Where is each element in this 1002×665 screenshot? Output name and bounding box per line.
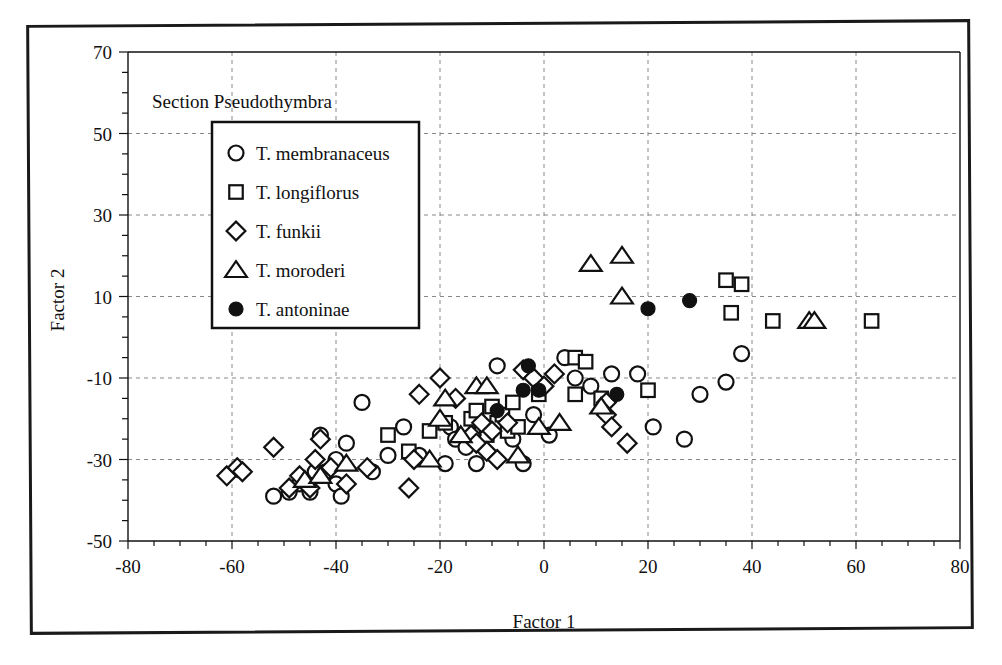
data-point xyxy=(735,278,749,292)
data-point xyxy=(266,489,281,504)
data-point xyxy=(579,355,593,369)
data-point xyxy=(355,395,370,410)
x-tick-label: 40 xyxy=(743,556,762,577)
data-point xyxy=(865,314,879,328)
legend-label: T. moroderi xyxy=(256,260,345,281)
data-point xyxy=(568,388,582,402)
x-tick-label: -60 xyxy=(219,556,244,577)
legend-marker-circle-open xyxy=(229,146,244,161)
data-point xyxy=(683,294,697,308)
legend-label: T. antoninae xyxy=(256,299,350,320)
legend: T. membranaceusT. longiflorusT. funkiiT.… xyxy=(212,122,419,328)
data-point xyxy=(604,366,619,381)
data-point xyxy=(264,438,283,457)
data-point xyxy=(677,432,692,447)
data-point xyxy=(469,456,484,471)
x-axis-label: Factor 1 xyxy=(513,611,576,632)
data-point xyxy=(516,383,530,397)
data-point xyxy=(339,436,354,451)
data-point xyxy=(734,346,749,361)
y-tick-label: -50 xyxy=(87,531,112,552)
data-point xyxy=(611,288,633,304)
data-point xyxy=(719,273,733,287)
data-point xyxy=(610,387,624,401)
data-point xyxy=(438,456,453,471)
data-point xyxy=(399,479,418,498)
data-point xyxy=(641,302,655,316)
y-tick-label: 30 xyxy=(93,205,112,226)
data-point xyxy=(396,419,411,434)
legend-label: T. longiflorus xyxy=(256,182,359,203)
data-point xyxy=(532,383,546,397)
data-point xyxy=(410,385,429,404)
data-point xyxy=(381,428,395,442)
x-tick-label: -80 xyxy=(115,556,140,577)
y-tick-label: -30 xyxy=(87,450,112,471)
legend-label: T. funkii xyxy=(256,221,321,242)
x-tick-label: 20 xyxy=(639,556,658,577)
x-tick-label: -40 xyxy=(323,556,348,577)
legend-label: T. membranaceus xyxy=(256,143,390,164)
data-point xyxy=(507,447,529,463)
y-axis-label: Factor 2 xyxy=(47,269,68,332)
data-point xyxy=(724,306,738,320)
data-point xyxy=(766,314,780,328)
data-point xyxy=(618,434,637,453)
data-point xyxy=(580,255,602,271)
section-title: Section Pseudothymbra xyxy=(152,91,333,112)
x-tick-label: -20 xyxy=(427,556,452,577)
figure-page: -80-60-40-20020406080-50-30-1010305070 F… xyxy=(0,0,1002,665)
data-point xyxy=(641,383,655,397)
data-point xyxy=(506,396,520,410)
x-tick-label: 60 xyxy=(847,556,866,577)
data-point xyxy=(490,358,505,373)
y-tick-label: -10 xyxy=(87,368,112,389)
legend-marker-square-open xyxy=(229,185,243,199)
data-point xyxy=(646,419,661,434)
y-tick-label: 50 xyxy=(93,124,112,145)
data-point xyxy=(611,247,633,263)
data-point xyxy=(568,371,583,386)
x-tick-label: 80 xyxy=(951,556,970,577)
x-tick-label: 0 xyxy=(539,556,549,577)
data-point xyxy=(431,369,450,388)
data-point xyxy=(549,414,571,430)
legend-marker-circle-filled xyxy=(229,302,243,316)
scatter-plot: -80-60-40-20020406080-50-30-1010305070 F… xyxy=(0,0,1002,665)
data-point xyxy=(693,387,708,402)
y-tick-label: 10 xyxy=(93,287,112,308)
data-point xyxy=(630,366,645,381)
data-point xyxy=(719,375,734,390)
data-point xyxy=(521,359,535,373)
y-tick-label: 70 xyxy=(93,42,112,63)
data-point xyxy=(381,448,396,463)
data-point xyxy=(490,404,504,418)
